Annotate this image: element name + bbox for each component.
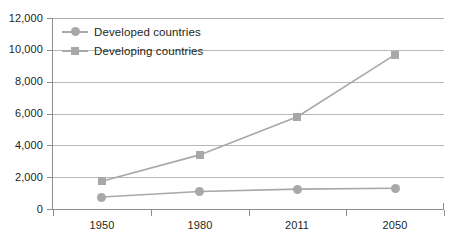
data-point-developing-countries-1950	[98, 177, 106, 185]
y-tick-4000	[47, 145, 52, 146]
x-tick-2	[249, 210, 250, 216]
x-tick-4	[444, 210, 445, 216]
y-axis-label-10000: 10,000	[0, 44, 43, 55]
x-tick-0	[53, 210, 54, 216]
x-axis-label-2011: 2011	[267, 219, 327, 231]
x-tick-3	[346, 210, 347, 216]
x-axis-label-1950: 1950	[72, 219, 132, 231]
y-tick-6000	[47, 114, 52, 115]
y-axis-label-6000: 6,000	[0, 108, 43, 119]
y-axis-label-4000: 4,000	[0, 140, 43, 151]
data-point-developed-countries-1950	[97, 193, 106, 202]
chart-legend: Developed countries Developing countries	[62, 22, 252, 60]
y-axis-label-8000: 8,000	[0, 76, 43, 87]
y-axis-label-12000: 12,000	[0, 13, 43, 24]
x-tick-1	[151, 210, 152, 216]
legend-item-developing: Developing countries	[62, 41, 252, 60]
y-axis-label-2000: 2,000	[0, 172, 43, 183]
legend-label-developed: Developed countries	[88, 26, 201, 38]
y-axis-label-0: 0	[0, 204, 43, 215]
data-point-developing-countries-2011	[293, 113, 301, 121]
x-axis-label-2050: 2050	[365, 219, 425, 231]
legend-marker-circle-icon	[62, 26, 88, 38]
data-point-developing-countries-1980	[196, 151, 204, 159]
x-axis-label-1980: 1980	[170, 219, 230, 231]
series-line-developed	[102, 188, 395, 197]
line-chart: 02,0004,0006,0008,00010,00012,000 195019…	[0, 0, 456, 243]
data-point-developed-countries-2011	[293, 185, 302, 194]
y-tick-12000	[47, 18, 52, 19]
y-tick-10000	[47, 50, 52, 51]
series-line-developing	[102, 55, 395, 182]
y-tick-0	[47, 209, 52, 210]
legend-label-developing: Developing countries	[88, 45, 203, 57]
legend-item-developed: Developed countries	[62, 22, 252, 41]
data-point-developed-countries-2050	[391, 184, 400, 193]
legend-marker-square-icon	[62, 45, 88, 57]
y-tick-2000	[47, 177, 52, 178]
data-point-developing-countries-2050	[391, 51, 399, 59]
y-tick-8000	[47, 82, 52, 83]
